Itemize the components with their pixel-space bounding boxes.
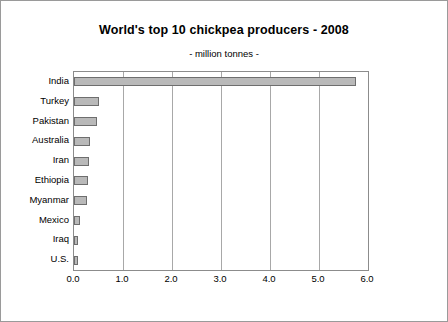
- x-tick-label: 4.0: [262, 273, 275, 284]
- bar-row: [74, 131, 368, 151]
- bar-row: [74, 92, 368, 112]
- bar-row: [74, 112, 368, 132]
- x-tick-label: 3.0: [213, 273, 226, 284]
- chart-title: World's top 10 chickpea producers - 2008: [1, 23, 447, 37]
- x-tick-label: 5.0: [311, 273, 324, 284]
- bar-u-s: [74, 256, 78, 265]
- bar-mexico: [74, 216, 80, 225]
- bar-australia: [74, 137, 90, 146]
- plot-area: [73, 71, 369, 271]
- chart-container: World's top 10 chickpea producers - 2008…: [0, 0, 448, 322]
- bar-india: [74, 77, 356, 86]
- y-axis-category-labels: IndiaTurkeyPakistanAustraliaIranEthiopia…: [1, 71, 69, 271]
- bar-row: [74, 171, 368, 191]
- bar-iraq: [74, 236, 78, 245]
- category-label: Mexico: [39, 215, 69, 225]
- bar-turkey: [74, 97, 99, 106]
- bar-row: [74, 250, 368, 270]
- category-label: Iraq: [53, 234, 69, 244]
- category-label: Ethiopia: [35, 175, 69, 185]
- bar-row: [74, 72, 368, 92]
- category-label: U.S.: [51, 254, 69, 264]
- bar-row: [74, 211, 368, 231]
- bar-iran: [74, 157, 89, 166]
- x-tick-label: 0.0: [66, 273, 79, 284]
- bar-ethiopia: [74, 176, 88, 185]
- category-label: Turkey: [40, 96, 69, 106]
- category-label: Iran: [53, 155, 69, 165]
- category-label: Australia: [32, 135, 69, 145]
- x-tick-label: 1.0: [115, 273, 128, 284]
- x-axis-tick-labels: 0.01.02.03.04.05.06.0: [73, 273, 369, 289]
- x-tick-label: 2.0: [164, 273, 177, 284]
- bar-myanmar: [74, 196, 87, 205]
- x-tick-label: 6.0: [360, 273, 373, 284]
- bar-row: [74, 191, 368, 211]
- bar-row: [74, 230, 368, 250]
- bar-row: [74, 151, 368, 171]
- category-label: India: [48, 76, 69, 86]
- category-label: Myanmar: [29, 195, 69, 205]
- chart-subtitle: - million tonnes -: [1, 48, 447, 59]
- category-label: Pakistan: [33, 116, 69, 126]
- bar-pakistan: [74, 117, 97, 126]
